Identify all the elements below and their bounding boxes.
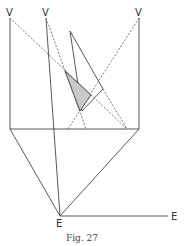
eye-line-label: E: [171, 211, 177, 222]
left-sight-line: [10, 129, 60, 216]
dashed-line-lower-right: [103, 89, 127, 129]
dashed-line-right-vp: [68, 18, 139, 129]
figure-caption: Fig. 27: [66, 233, 98, 243]
dashed-line-left-vp: [10, 18, 127, 129]
vanishing-point-label-right: V: [135, 7, 142, 18]
right-sight-line: [60, 129, 139, 216]
perspective-diagram: V V V E E Fig. 27: [0, 0, 187, 246]
vanishing-point-label-middle: V: [42, 7, 49, 18]
vanishing-point-label-left: V: [6, 7, 13, 18]
eye-point-label: E: [56, 218, 62, 229]
shaded-triangle: [65, 71, 91, 111]
middle-vertical-line: [46, 18, 60, 216]
